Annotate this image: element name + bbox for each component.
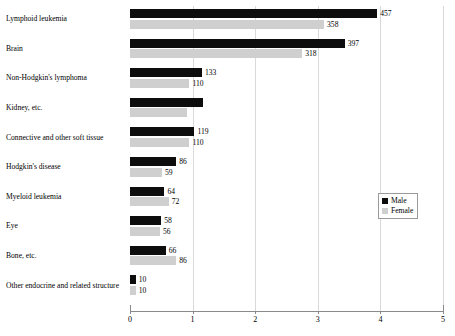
bar-male <box>130 187 164 196</box>
category-label: Bone, etc. <box>6 251 126 260</box>
bar-value-female: 358 <box>327 20 338 29</box>
bar-female <box>130 79 189 88</box>
x-tick-label: 3 <box>308 315 328 325</box>
bar-value-male: 457 <box>380 9 391 18</box>
bar-value-female: 86 <box>179 256 187 265</box>
legend-label: Female <box>391 206 413 216</box>
category-label: Eye <box>6 221 126 230</box>
bar-value-male: 86 <box>179 157 187 166</box>
category-label: Hodgkin's disease <box>6 162 126 171</box>
x-axis-line <box>130 311 443 312</box>
chart-row: Non-Hodgkin's lymphoma133110 <box>0 68 455 88</box>
chart-row: Other endocrine and related structure101… <box>0 275 455 295</box>
legend: MaleFemale <box>378 193 418 219</box>
chart-row: Eye5856 <box>0 216 455 236</box>
bar-value-female: 56 <box>163 227 171 236</box>
bar-value-female: 318 <box>305 49 316 58</box>
x-tick-mark <box>255 311 256 314</box>
bar-value-female: 110 <box>192 79 203 88</box>
bar-male <box>130 68 202 77</box>
chart-row: Brain397318 <box>0 39 455 59</box>
category-label: Other endocrine and related structure <box>6 281 126 290</box>
category-label: Non-Hodgkin's lymphoma <box>6 73 126 82</box>
bar-female <box>130 286 136 295</box>
bar-value-male: 58 <box>164 216 172 225</box>
x-tick-label: 4 <box>370 315 390 325</box>
bar-female <box>130 227 160 236</box>
x-tick-label: 2 <box>245 315 265 325</box>
bar-male <box>130 98 203 107</box>
x-tick-mark <box>130 311 131 314</box>
bar-male <box>130 9 377 18</box>
x-tick-mark <box>318 311 319 314</box>
bar-female <box>130 49 302 58</box>
x-tick-label: 5 <box>433 315 453 325</box>
category-label: Connective and other soft tissue <box>6 133 126 142</box>
bar-value-female: 110 <box>192 138 203 147</box>
bar-female <box>130 168 162 177</box>
bar-value-female: 59 <box>165 168 173 177</box>
bar-female <box>130 138 189 147</box>
bar-value-female: 10 <box>139 286 147 295</box>
category-label: Kidney, etc. <box>6 103 126 112</box>
bar-female <box>130 108 187 117</box>
chart-row: Hodgkin's disease8659 <box>0 157 455 177</box>
chart-row: Lymphoid leukemia457358 <box>0 9 455 29</box>
bar-value-male: 119 <box>197 127 208 136</box>
bar-male <box>130 216 161 225</box>
x-tick-mark <box>193 311 194 314</box>
category-label: Lymphoid leukemia <box>6 14 126 23</box>
bar-male <box>130 39 345 48</box>
chart-row: Bone, etc.6686 <box>0 246 455 266</box>
legend-item[interactable]: Male <box>382 196 413 206</box>
chart-row: Connective and other soft tissue119110 <box>0 127 455 147</box>
bar-male <box>130 246 166 255</box>
x-tick-mark <box>380 311 381 314</box>
legend-swatch-female <box>382 208 388 214</box>
bar-female <box>130 256 176 265</box>
bar-male <box>130 157 176 166</box>
bar-male <box>130 127 194 136</box>
x-tick-label: 1 <box>183 315 203 325</box>
legend-label: Male <box>391 196 407 206</box>
bar-female <box>130 197 169 206</box>
legend-swatch-male <box>382 198 388 204</box>
x-tick-mark <box>443 311 444 314</box>
legend-item[interactable]: Female <box>382 206 413 216</box>
bar-value-female: 72 <box>172 197 180 206</box>
chart-row: Kidney, etc. <box>0 98 455 118</box>
bar-value-male: 133 <box>205 68 216 77</box>
bar-female <box>130 20 324 29</box>
bar-value-male: 66 <box>169 246 177 255</box>
bar-chart: 012345Lymphoid leukemia457358Brain397318… <box>0 0 455 336</box>
x-tick-label: 0 <box>120 315 140 325</box>
bar-value-male: 64 <box>167 187 175 196</box>
bar-male <box>130 275 136 284</box>
bar-value-male: 10 <box>139 275 147 284</box>
category-label: Brain <box>6 44 126 53</box>
category-label: Myeloid leukemia <box>6 192 126 201</box>
bar-value-male: 397 <box>348 39 359 48</box>
